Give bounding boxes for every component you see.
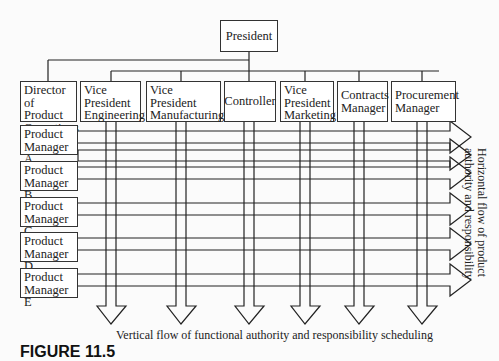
vp-engineering-box: Vice President Engineering [80,81,141,122]
product-manager-a-box: Product Manager A [20,125,78,155]
president-box: President [220,20,278,52]
pm-line: Manager E [24,284,74,309]
box-line: Director [24,84,73,97]
horizontal-flow-line1: Horizontal flow of product [475,148,489,277]
product-manager-b-box: Product Manager B [20,161,78,191]
box-line: Controller [224,95,275,108]
box-line: of Product [24,97,73,122]
box-line: Vice [150,84,217,97]
product-manager-d-box: Product Manager D [20,232,78,262]
box-line: Procurement [395,89,452,102]
box-line: Engineering [84,109,137,122]
vp-marketing-box: Vice President Marketing [280,81,334,122]
box-line: Vice [284,84,330,97]
pm-line: Product [24,271,74,284]
box-line: Manufacturing [150,109,217,122]
director-product-operations-box: Director of Product Operations [20,81,77,122]
box-line: Vice [84,84,137,97]
box-line: Marketing [284,109,330,122]
procurement-manager-box: Procurement Manager [391,81,456,122]
box-line: Manager [341,102,385,115]
product-manager-c-box: Product Manager C [20,197,78,227]
box-line: Manager [395,102,452,115]
contracts-manager-box: Contracts Manager [337,81,388,122]
horizontal-flow-line2: authority and responsibility [462,148,476,280]
pm-line: Product [24,164,74,177]
vertical-flow-label: Vertical flow of functional authority an… [116,328,433,343]
pm-line: Product [24,235,74,248]
figure-caption: FIGURE 11.5 [20,343,115,361]
president-label: President [226,30,273,43]
vp-manufacturing-box: Vice President Manufacturing [146,81,221,122]
horizontal-flow-label: Horizontal flow of product authority and… [462,148,488,280]
pm-line: Product [24,200,74,213]
product-manager-e-box: Product Manager E [20,268,78,298]
pm-line: Product [24,128,74,141]
controller-box: Controller [224,81,276,122]
box-line: Contracts [341,89,389,102]
